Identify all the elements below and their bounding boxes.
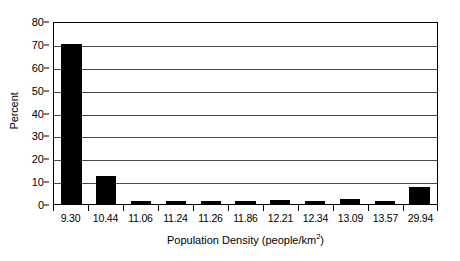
x-tick-label: 11.86 — [228, 210, 263, 226]
x-axis-title-base: Population Density (people/km — [167, 234, 316, 246]
bar[interactable] — [270, 200, 290, 204]
y-tick-label: 50 — [32, 85, 44, 96]
bar-slot — [89, 23, 124, 204]
y-tick-mark — [44, 136, 49, 137]
bar-slot — [124, 23, 159, 204]
x-tick-label: 9.30 — [53, 210, 88, 226]
plot-area — [53, 22, 438, 205]
x-tick-label: 11.26 — [193, 210, 228, 226]
bar[interactable] — [166, 201, 186, 204]
bar-slot — [298, 23, 333, 204]
y-tick-label: 10 — [32, 177, 44, 188]
y-tick-mark — [44, 44, 49, 45]
x-axis-tick-labels: 9.3010.4411.0611.2411.2611.8612.2112.341… — [53, 210, 438, 226]
bars-layer — [54, 23, 437, 204]
bar-slot — [193, 23, 228, 204]
x-axis-title: Population Density (people/km2) — [53, 233, 438, 247]
y-tick-label: 20 — [32, 154, 44, 165]
bar-slot — [402, 23, 437, 204]
bar-slot — [54, 23, 89, 204]
bar[interactable] — [235, 201, 255, 204]
y-tick-label: 30 — [32, 131, 44, 142]
bar-slot — [263, 23, 298, 204]
bar[interactable] — [409, 187, 429, 204]
bar[interactable] — [375, 201, 395, 204]
bar-slot — [367, 23, 402, 204]
y-tick-label: 60 — [32, 62, 44, 73]
bar[interactable] — [96, 176, 116, 204]
y-tick-mark — [44, 159, 49, 160]
bar-slot — [228, 23, 263, 204]
y-tick-mark — [44, 22, 49, 23]
y-tick-label: 70 — [32, 39, 44, 50]
y-tick-label: 40 — [32, 108, 44, 119]
y-tick-mark — [44, 113, 49, 114]
bar[interactable] — [131, 201, 151, 204]
bar-slot — [333, 23, 368, 204]
bar[interactable] — [61, 44, 81, 204]
x-tick-label: 12.34 — [298, 210, 333, 226]
y-tick-label: 80 — [32, 17, 44, 28]
bar[interactable] — [305, 201, 325, 204]
y-tick-mark — [44, 205, 49, 206]
y-tick-mark — [44, 90, 49, 91]
bar-slot — [158, 23, 193, 204]
x-tick-label: 10.44 — [88, 210, 123, 226]
bar[interactable] — [201, 201, 221, 204]
y-axis-title: Percent — [7, 20, 21, 203]
x-tick-label: 13.57 — [368, 210, 403, 226]
histogram-chart: Percent 01020304050607080 9.3010.4411.06… — [0, 0, 460, 261]
y-tick-mark — [44, 67, 49, 68]
x-tick-label: 13.09 — [333, 210, 368, 226]
x-axis-title-tail: ) — [320, 234, 324, 246]
x-tick-label: 12.21 — [263, 210, 298, 226]
x-tick-label: 11.24 — [158, 210, 193, 226]
x-tick-label: 11.06 — [123, 210, 158, 226]
y-axis-ticks: 01020304050607080 — [22, 22, 48, 205]
y-tick-mark — [44, 182, 49, 183]
bar[interactable] — [340, 199, 360, 204]
x-tick-label: 29.94 — [403, 210, 438, 226]
